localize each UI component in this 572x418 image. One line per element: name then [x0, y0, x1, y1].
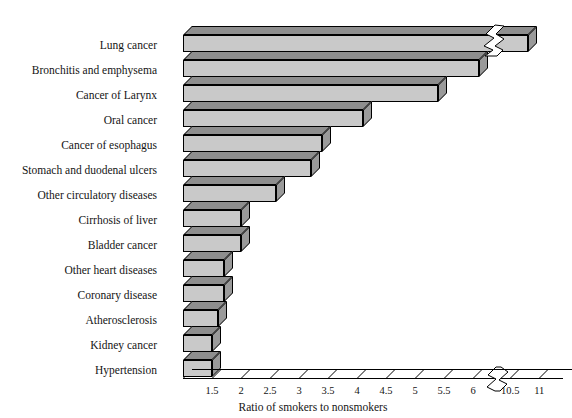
category-label: Cancer of esophagus	[61, 139, 157, 151]
plot-area	[163, 0, 540, 418]
x-tick	[539, 369, 549, 378]
category-label: Coronary disease	[77, 289, 157, 301]
x-tick-label: 3.5	[312, 385, 344, 396]
x-tick	[510, 369, 520, 378]
category-axis-labels: Lung cancerBronchitis and emphysemaCance…	[0, 0, 163, 418]
bar-front-face	[183, 310, 218, 327]
bar-front-face	[183, 185, 276, 202]
x-tick	[444, 369, 454, 378]
x-tick-label: 4	[341, 385, 373, 396]
bar-break-zigzag	[481, 24, 507, 58]
bar-front-face	[183, 335, 212, 352]
bar-front-face	[183, 35, 528, 52]
x-tick	[386, 369, 396, 378]
x-tick	[357, 369, 367, 378]
bar-top-face	[183, 151, 320, 160]
bar-front-face	[183, 160, 311, 177]
category-label: Stomach and duodenal ulcers	[22, 164, 157, 176]
category-label: Other circulatory diseases	[38, 189, 157, 201]
x-tick	[473, 369, 483, 378]
bar-top-face	[183, 201, 250, 210]
category-label: Bronchitis and emphysema	[32, 64, 157, 76]
bar-front-face	[183, 210, 241, 227]
bar-top-face	[183, 176, 285, 185]
x-tick-label: 2.5	[254, 385, 286, 396]
bar-top-face	[183, 126, 331, 135]
x-tick	[299, 369, 309, 378]
x-axis-top-line	[192, 369, 572, 370]
x-axis-title: Ratio of smokers to nonsmokers	[163, 401, 463, 413]
bar-front-face	[183, 85, 438, 102]
x-tick-label: 3	[283, 385, 315, 396]
category-label: Atherosclerosis	[85, 314, 157, 326]
category-label: Lung cancer	[100, 39, 157, 51]
category-label: Kidney cancer	[90, 339, 157, 351]
x-tick-label: 6	[457, 385, 489, 396]
bar-front-face	[183, 235, 241, 252]
x-tick-label: 1.5	[196, 385, 228, 396]
x-tick-label: 4.5	[370, 385, 402, 396]
category-label: Bladder cancer	[88, 239, 157, 251]
x-tick	[270, 369, 280, 378]
bar-front-face	[183, 260, 224, 277]
x-tick-label: 2	[225, 385, 257, 396]
category-label: Cirrhosis of liver	[78, 214, 157, 226]
bar-top-face	[183, 51, 488, 60]
category-label: Cancer of Larynx	[76, 89, 157, 101]
x-tick-label: 5.5	[428, 385, 460, 396]
x-tick	[328, 369, 338, 378]
bar-front-face	[183, 135, 322, 152]
bar-top-face	[183, 226, 250, 235]
category-label: Other heart diseases	[64, 264, 157, 276]
bar-top-face	[183, 101, 372, 110]
x-tick	[241, 369, 251, 378]
bar-front-face	[183, 285, 224, 302]
x-tick-label: 10.5	[494, 385, 526, 396]
category-label: Hypertension	[95, 364, 157, 376]
x-tick	[415, 369, 425, 378]
bar-top-face	[183, 76, 447, 85]
bar-front-face	[183, 110, 363, 127]
category-label: Oral cancer	[104, 114, 157, 126]
bar-front-face	[183, 60, 479, 77]
x-tick-label: 5	[399, 385, 431, 396]
x-tick-label: 11	[523, 385, 555, 396]
